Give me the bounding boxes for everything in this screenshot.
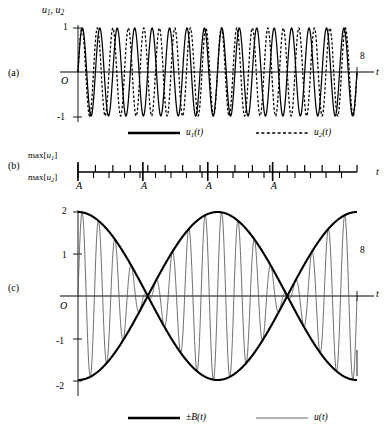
panel-a-plot [0, 0, 390, 140]
panel-c-plot [0, 200, 390, 415]
legend-c-label-u: u(t) [314, 412, 328, 422]
panel-b-mark-A: A [271, 180, 277, 191]
panel-b-mark-A: A [76, 180, 82, 191]
legend-c-label-b: ±B(t) [186, 412, 206, 422]
legend-a-label-u1: u1(t) [186, 127, 203, 138]
panel-b-mark-A: A [141, 180, 147, 191]
legend-a-label-u2: u2(t) [314, 127, 331, 138]
panel-b-plot [0, 158, 390, 198]
figure-beats: (a) u1, u2 1 O -1 8 t u1(t) u2(t) (b) ma… [0, 0, 390, 431]
panel-b-mark-A: A [206, 180, 212, 191]
